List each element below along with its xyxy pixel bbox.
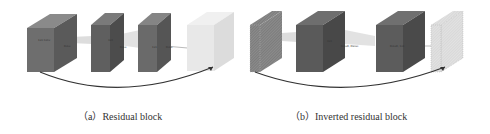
layer-label: ReLu — [120, 46, 127, 49]
skip-connection-arrow — [255, 67, 445, 87]
conv-1x1-tensor — [138, 13, 171, 72]
input-bottleneck-tensor — [250, 11, 282, 72]
expansion-tensor — [296, 11, 345, 72]
layer-label: 1x1 — [152, 46, 157, 49]
caption-residual-block: （a）Residual block — [78, 108, 162, 123]
inverted-residual-block-diagram: 3x3 ReLu6, Dwise ReLu6, 1x1 + — [245, 0, 490, 105]
caption-inverted-residual-block: （b）Inverted residual block — [290, 108, 407, 123]
depthwise-tensor — [376, 11, 425, 72]
output-bottleneck-tensor — [431, 11, 463, 72]
input-tensor — [27, 14, 77, 72]
inverted-residual-block-panel: 3x3 ReLu6, Dwise ReLu6, 1x1 + （b）Inverte… — [245, 0, 490, 134]
layer-label: 1x1 Conv — [38, 39, 51, 42]
layer-label: ReLu6, Dwise — [341, 45, 359, 48]
residual-block-diagram: 1x1 Conv ReLu 3x3 ReLu 1x1 ReLu + — [0, 0, 245, 105]
conv-3x3-tensor — [91, 13, 124, 72]
layer-label: 3x3 — [108, 39, 113, 42]
output-tensor — [187, 12, 234, 71]
layer-label: ReLu6, 1x1 — [390, 45, 405, 48]
residual-block-panel: 1x1 Conv ReLu 3x3 ReLu 1x1 ReLu + （a）Res… — [0, 0, 245, 134]
layer-label: ReLu — [64, 45, 71, 48]
layer-label: ReLu — [166, 46, 173, 49]
layer-label: 3x3 — [327, 40, 332, 43]
